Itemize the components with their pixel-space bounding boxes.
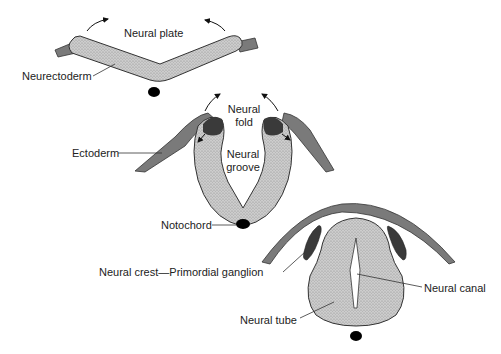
label-notochord: Notochord [161, 219, 212, 232]
neural-plate-shape [69, 36, 242, 82]
label-neural-tube: Neural tube [240, 314, 297, 327]
diagram-canvas [0, 0, 501, 354]
arrow-fold-right-2 [262, 94, 278, 111]
label-neural-fold: Neural fold [224, 103, 264, 129]
leader-neurectoderm [93, 64, 115, 76]
notochord-2 [236, 219, 250, 229]
label-neurectoderm: Neurectoderm [22, 70, 92, 83]
label-neural-groove: Neural groove [222, 148, 264, 174]
label-neural-groove-line1: Neural [222, 148, 264, 161]
label-neural-canal: Neural canal [424, 282, 486, 295]
notochord-1 [148, 87, 160, 97]
label-neural-fold-line1: Neural [224, 103, 264, 116]
neural-crest-ganglion-left [303, 226, 321, 260]
label-ectoderm: Ectoderm [72, 147, 119, 160]
label-neural-plate: Neural plate [124, 27, 183, 40]
label-neural-crest-primordial-ganglion: Neural crest—Primordial ganglion [99, 266, 263, 279]
arrow-fold-right-1 [205, 20, 225, 31]
arrow-fold-left-1 [87, 19, 108, 31]
label-neural-groove-line2: groove [222, 161, 264, 174]
leader-neural-crest [283, 252, 305, 272]
arrow-fold-left-2 [205, 94, 220, 111]
label-neural-fold-line2: fold [224, 116, 264, 129]
notochord-3 [350, 331, 362, 341]
